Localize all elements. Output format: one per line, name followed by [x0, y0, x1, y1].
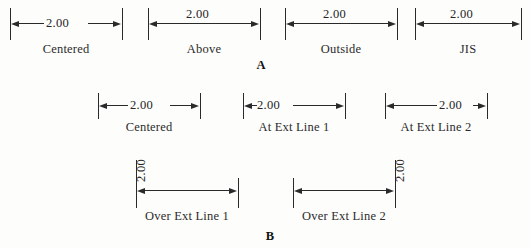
arrowhead-left-icon	[286, 21, 294, 27]
figure-page: 2.00 Centered 2.00 Above 2.00 Outside 2.…	[0, 0, 531, 248]
arrowhead-left-icon	[294, 188, 302, 194]
dimension-value: 2.00	[257, 98, 280, 113]
dimension-line	[423, 23, 513, 24]
arrowhead-left-icon	[149, 21, 157, 27]
extension-line-right	[200, 93, 201, 119]
arrowhead-right-icon	[229, 188, 237, 194]
arrowhead-left-icon	[137, 188, 145, 194]
dimension-line-segment-left	[106, 105, 128, 106]
dimension-value: 2.00	[130, 98, 153, 113]
arrowhead-right-icon	[113, 21, 121, 27]
dimension-line-segment-right	[170, 105, 192, 106]
extension-line-right	[238, 178, 239, 208]
arrowhead-right-icon	[388, 21, 396, 27]
dim-style-label: Over Ext Line 2	[277, 209, 411, 224]
dimension-value: 2.00	[134, 159, 149, 182]
dimension-value: 2.00	[450, 7, 473, 22]
dim-style-label: At Ext Line 2	[375, 120, 497, 135]
extension-line-right	[521, 8, 522, 40]
dimension-line-segment-left	[393, 105, 437, 106]
arrowhead-right-icon	[386, 188, 394, 194]
dimension-value: 2.00	[323, 7, 346, 22]
dim-style-label: Centered	[10, 42, 122, 57]
cut-off-text-sliver	[0, 0, 531, 3]
dimension-line-segment-right	[88, 23, 114, 24]
arrowhead-right-icon	[478, 103, 486, 109]
dimension-value: 2.00	[439, 98, 462, 113]
extension-line-right	[122, 8, 123, 40]
panel-b-letter: B	[240, 229, 300, 244]
dim-style-label: Above	[148, 42, 260, 57]
extension-line-right	[487, 93, 488, 119]
dim-style-label: Centered	[88, 120, 210, 135]
arrowhead-left-icon	[99, 103, 107, 109]
dimension-line	[293, 23, 389, 24]
arrowhead-right-icon	[512, 21, 520, 27]
dimension-value: 2.00	[393, 159, 408, 182]
extension-line-right	[260, 8, 261, 40]
dimension-line	[144, 190, 230, 191]
dimension-line	[301, 190, 387, 191]
dim-style-label: At Ext Line 1	[233, 120, 355, 135]
dimension-line	[156, 23, 252, 24]
arrowhead-left-icon	[386, 103, 394, 109]
dimension-value: 2.00	[46, 16, 69, 31]
dim-style-label: JIS	[415, 42, 521, 57]
arrowhead-right-icon	[191, 103, 199, 109]
dimension-value: 2.00	[186, 7, 209, 22]
extension-line-right	[345, 93, 346, 119]
dimension-line-segment-left	[18, 23, 44, 24]
dim-style-label: Over Ext Line 1	[120, 209, 254, 224]
arrowhead-left-icon	[244, 103, 252, 109]
panel-a-letter: A	[231, 58, 291, 73]
arrowhead-left-icon	[11, 21, 19, 27]
arrowhead-right-icon	[336, 103, 344, 109]
dimension-line-segment-right	[293, 105, 337, 106]
arrowhead-left-icon	[416, 21, 424, 27]
arrowhead-right-icon	[251, 21, 259, 27]
extension-line-right	[397, 8, 398, 40]
dim-style-label: Outside	[285, 42, 397, 57]
